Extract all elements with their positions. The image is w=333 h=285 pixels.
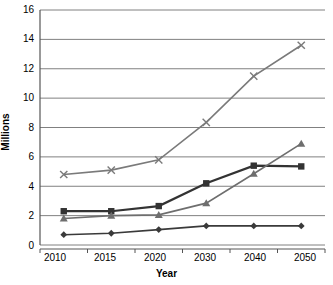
data-point-x: [250, 72, 257, 79]
x-axis-ticks: [40, 249, 325, 253]
series-square-marker: [61, 162, 305, 214]
series-line: [64, 45, 302, 174]
data-point-square: [298, 163, 304, 169]
line-chart: Millions 16 14 12 10 8 6 4 2 0 2010 2015…: [0, 0, 333, 285]
series-x-marker: [60, 42, 305, 178]
data-point-x: [203, 119, 210, 126]
data-point-diamond: [108, 230, 115, 237]
data-point-x: [298, 42, 305, 49]
data-point-diamond: [298, 223, 305, 230]
data-point-triangle: [202, 199, 210, 206]
series-triangle-marker: [60, 140, 306, 222]
data-point-diamond: [60, 231, 67, 238]
data-point-diamond: [250, 223, 257, 230]
series-diamond-marker: [60, 223, 304, 239]
data-point-diamond: [155, 226, 162, 233]
data-point-triangle: [297, 140, 305, 147]
axis-lines: [40, 10, 325, 249]
series-line: [64, 144, 302, 219]
series-line: [64, 166, 302, 212]
data-point-triangle: [250, 170, 258, 177]
data-point-square: [61, 208, 67, 214]
data-point-square: [156, 203, 162, 209]
series-layer: [60, 42, 306, 238]
series-line: [64, 226, 302, 235]
plot-area: [0, 0, 333, 285]
data-point-square: [251, 162, 257, 168]
data-point-diamond: [203, 223, 210, 230]
data-point-square: [203, 180, 209, 186]
